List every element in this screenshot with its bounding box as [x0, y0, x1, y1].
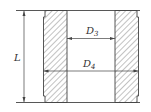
left-wall-section: [44, 11, 68, 103]
L-arrow-top-icon: [23, 11, 26, 16]
L-arrow-bottom-icon: [23, 97, 26, 102]
sleeve-cross-section-drawing: L D3 D4: [0, 0, 151, 112]
D3-arrow-right-icon: [110, 37, 115, 40]
D4-label: D4: [82, 58, 96, 71]
D3-arrow-left-icon: [67, 37, 72, 40]
right-wall-section: [115, 11, 139, 103]
D3-label: D3: [85, 25, 99, 38]
L-label: L: [13, 52, 21, 63]
